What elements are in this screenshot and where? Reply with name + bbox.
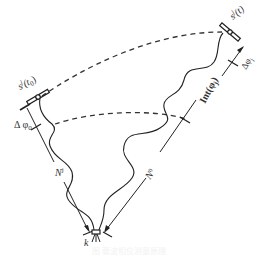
arrowhead-top-right bbox=[237, 46, 244, 53]
range-line-right-mid bbox=[160, 100, 196, 152]
label-delta-phij: Δφj bbox=[239, 55, 255, 72]
signal-wave-right bbox=[99, 33, 223, 230]
satellite-icon-t bbox=[219, 23, 240, 42]
satellite-icon-t0 bbox=[27, 89, 50, 105]
receiver-antenna-icon bbox=[92, 230, 100, 242]
diagram-canvas: sj(t0) sj(t) Δ φ0 Δφj Int(φj) Nj N0 k 图 … bbox=[0, 0, 267, 258]
arrowhead-nj bbox=[84, 225, 90, 233]
label-sat-t: sj(t) bbox=[227, 2, 248, 22]
tick-right-bottom bbox=[103, 232, 112, 237]
range-line-right-lower bbox=[106, 178, 146, 230]
label-sat-t0: sj(t0) bbox=[15, 72, 38, 93]
label-nj: Nj bbox=[54, 166, 64, 178]
label-receiver-k: k bbox=[84, 237, 89, 248]
figure-caption: 图 载波相位测量原理 bbox=[92, 246, 166, 256]
orbit-arc-dashed bbox=[42, 32, 222, 96]
tick-right-int bbox=[180, 117, 190, 123]
label-delta-phi0: Δ φ0 bbox=[14, 119, 32, 132]
signal-wave-left bbox=[40, 98, 94, 230]
label-int-phij: Int(φj) bbox=[197, 75, 222, 106]
range-line-nj-lower bbox=[64, 182, 88, 230]
range-line-nj bbox=[27, 108, 54, 162]
